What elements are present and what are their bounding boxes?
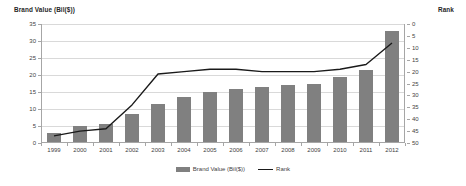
y-axis-right-tick-label: 15 [412,57,419,63]
legend-item-brand-value: Brand Value (Bil($)) [176,166,245,172]
y-axis-right-tick-mark [407,143,410,144]
y-axis-right-title: Rank [438,6,454,13]
x-axis-tick-mark [145,143,146,146]
x-axis-tick-mark [353,143,354,146]
x-axis-tick-label: 2004 [177,147,190,153]
y-axis-left-tick-label: 5 [33,123,36,129]
x-axis-tick-label: 2007 [255,147,268,153]
y-axis-right-tick-mark [407,131,410,132]
y-axis-left-ticks: 05101520253035 [16,24,36,143]
x-axis-labels: 1999200020012002200320042005200620072008… [41,147,405,159]
y-axis-left-tick-label: 0 [33,140,36,146]
line-swatch-icon [258,169,273,170]
x-axis-tick-mark [327,143,328,146]
bar-swatch-icon [176,167,190,172]
y-axis-left-tick-label: 30 [29,38,36,44]
x-axis-tick-label: 2010 [333,147,346,153]
y-axis-right-tick-label: 45 [412,128,419,134]
y-axis-left-tick-label: 20 [29,72,36,78]
chart-legend: Brand Value (Bil($)) Rank [0,166,466,172]
x-axis-tick-label: 2005 [203,147,216,153]
y-axis-right-ticks: 05101520253035404550 [412,24,436,143]
legend-label-brand-value: Brand Value (Bil($)) [193,166,245,172]
x-axis-tick-mark [301,143,302,146]
x-axis-tick-mark [119,143,120,146]
y-axis-right-tick-mark [407,72,410,73]
y-axis-right-tick-mark [407,36,410,37]
x-axis-tick-mark [197,143,198,146]
x-axis-tick-label: 2012 [385,147,398,153]
y-axis-left-tick-label: 10 [29,106,36,112]
plot-frame [41,24,405,143]
x-axis-tick-mark [249,143,250,146]
y-axis-left-tick-label: 25 [29,55,36,61]
x-axis-tick-mark [41,143,42,146]
y-axis-right-tick-label: 0 [412,21,415,27]
y-axis-right-tick-mark [407,119,410,120]
y-axis-left-tick-label: 15 [29,89,36,95]
y-axis-right-tick-label: 30 [412,92,419,98]
x-axis-tick-mark [67,143,68,146]
chart-container: Brand Value (Bil($)) Rank 05101520253035… [0,0,466,186]
y-axis-right-tick-label: 40 [412,116,419,122]
legend-item-rank: Rank [258,166,290,172]
x-axis-tick-label: 2003 [151,147,164,153]
y-axis-right-tick-mark [407,95,410,96]
y-axis-right-tick-mark [407,84,410,85]
x-axis-tick-label: 2009 [307,147,320,153]
y-axis-right-tick-label: 25 [412,81,419,87]
y-axis-right-tick-label: 35 [412,104,419,110]
x-axis-tick-label: 2002 [125,147,138,153]
y-axis-right-tick-mark [407,60,410,61]
y-axis-right-tick-label: 5 [412,33,415,39]
y-axis-right-tick-mark [407,24,410,25]
x-axis-tick-label: 2000 [73,147,86,153]
y-axis-left-tick-label: 35 [29,21,36,27]
x-axis-tick-mark [405,143,406,146]
x-axis-tick-mark [379,143,380,146]
x-axis-tick-mark [275,143,276,146]
x-axis-tick-mark [93,143,94,146]
y-axis-left-title: Brand Value (Bil($)) [14,6,75,13]
plot-area [41,24,405,143]
x-axis-tick-label: 2011 [360,147,373,153]
y-axis-right-tick-mark [407,48,410,49]
x-axis-tick-mark [223,143,224,146]
y-axis-right-tick-label: 10 [412,45,419,51]
x-axis-tick-label: 1999 [47,147,60,153]
y-axis-right-tick-label: 20 [412,69,419,75]
x-axis-tick-label: 2006 [229,147,242,153]
x-axis-tick-label: 2001 [99,147,112,153]
y-axis-right-tick-label: 50 [412,140,419,146]
y-axis-right-tick-mark [407,107,410,108]
x-axis-tick-label: 2008 [281,147,294,153]
legend-label-rank: Rank [276,166,290,172]
x-axis-tick-mark [171,143,172,146]
